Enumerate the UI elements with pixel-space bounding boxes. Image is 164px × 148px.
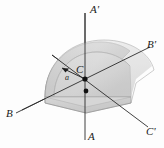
center-point-dot [82, 76, 87, 81]
label-radius-a: a [65, 74, 69, 82]
label-axis-a-prime: A' [90, 4, 99, 15]
label-axis-b-prime: B' [147, 39, 156, 50]
label-center-c: C [76, 64, 83, 75]
body-translucent-wash [45, 40, 154, 113]
label-axis-a: A [88, 131, 95, 142]
body-translucency [45, 40, 154, 113]
label-axis-b: B [6, 108, 13, 119]
figure-container: A' A B' B C' C a [0, 0, 164, 148]
label-axis-c-prime: C' [146, 126, 156, 137]
lower-axis-dot [84, 89, 89, 94]
